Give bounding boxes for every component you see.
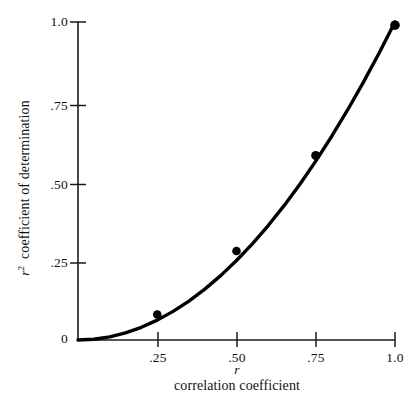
data-curve — [78, 22, 395, 340]
y-axis-symbol-base: r — [17, 271, 32, 276]
x-axis-label: correlation coefficient — [78, 377, 396, 394]
y-tick-label-text: 1.0 — [22, 15, 68, 29]
y-axis-label: coefficient of determination — [17, 100, 33, 259]
x-axis-title: r correlation coefficient — [78, 362, 396, 394]
y-axis-title: r2coefficient of determination — [15, 73, 51, 303]
y-tick-label-1.0: 1.0 — [22, 15, 68, 29]
data-point-marker — [390, 20, 400, 30]
data-point-marker — [153, 310, 162, 319]
origin-label: 0 — [22, 332, 68, 346]
data-point-marker — [311, 151, 320, 160]
x-axis-symbol: r — [78, 362, 396, 377]
data-point-marker — [232, 247, 241, 256]
origin-label-text: 0 — [22, 332, 68, 346]
y-axis-symbol-exponent: 2 — [16, 266, 26, 271]
chart-figure: 1.0 .75 .50 .25 0 .25 .50 .75 1.0 r co — [0, 0, 419, 407]
y-axis-symbol: r2 — [17, 266, 33, 276]
plot-area: 1.0 .75 .50 .25 0 .25 .50 .75 1.0 r co — [0, 0, 419, 407]
